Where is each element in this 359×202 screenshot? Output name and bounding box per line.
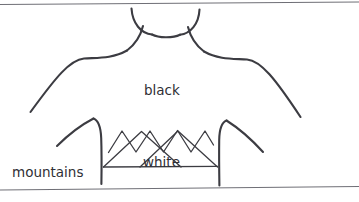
collar-bottom-arc xyxy=(152,35,180,38)
page-bottom-border xyxy=(0,187,359,191)
right-side-seam xyxy=(219,121,226,186)
sketch-figure: black white mountains xyxy=(0,0,359,202)
left-shoulder-outline xyxy=(31,51,128,113)
page-top-border xyxy=(0,2,359,5)
left-sleeve-underarm xyxy=(57,119,94,147)
right-sleeve-underarm xyxy=(227,121,264,153)
right-shoulder-outline xyxy=(204,52,301,118)
label-black: black xyxy=(144,84,180,98)
label-white: white xyxy=(143,156,180,170)
label-mountains: mountains xyxy=(12,166,83,180)
left-side-seam xyxy=(94,119,102,185)
